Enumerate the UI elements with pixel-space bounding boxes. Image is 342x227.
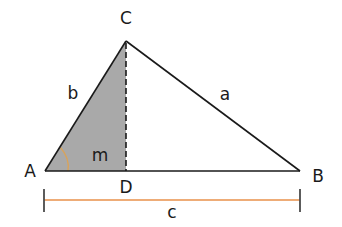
segment-label-m: m xyxy=(92,145,109,165)
side-label-b: b xyxy=(68,83,79,103)
vertex-label-a: A xyxy=(24,161,36,181)
dimension-label-c: c xyxy=(167,202,176,222)
vertex-label-b: B xyxy=(312,166,324,186)
vertex-label-c: C xyxy=(120,8,132,28)
side-label-a: a xyxy=(220,84,230,104)
side-a xyxy=(126,41,300,171)
vertex-label-d: D xyxy=(119,177,132,197)
triangle-diagram: C A B D b a m c xyxy=(0,0,342,227)
